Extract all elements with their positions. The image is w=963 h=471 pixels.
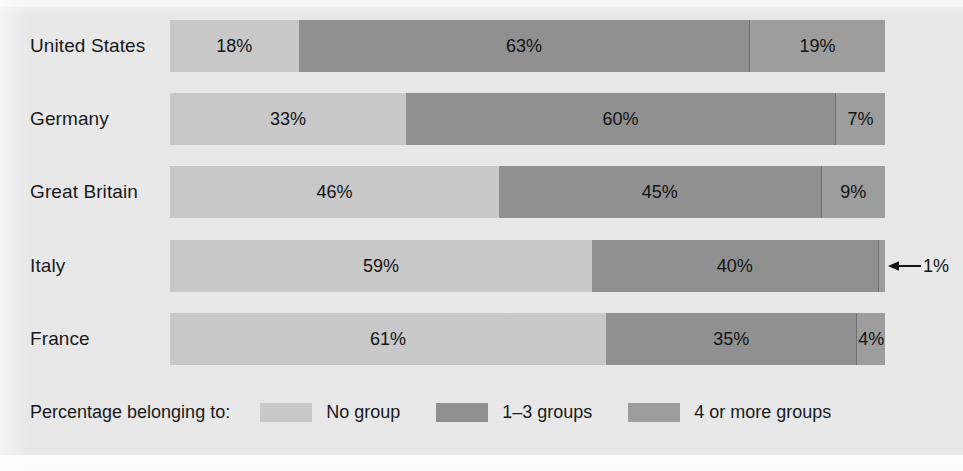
- top-page-margin: [0, 0, 963, 7]
- legend-item-no-group[interactable]: No group: [260, 402, 400, 423]
- legend-swatch-4-or-more-groups: [628, 403, 680, 422]
- bar-segment-4-or-more-groups[interactable]: 9%: [821, 166, 885, 218]
- stacked-bar-chart: United States 18% 63% 19% Germany 33% 60…: [0, 0, 963, 471]
- category-label-italy: Italy: [30, 240, 65, 292]
- bar-segment-4-or-more-groups[interactable]: 19%: [749, 20, 885, 72]
- chart-legend: Percentage belonging to: No group 1–3 gr…: [0, 392, 963, 432]
- left-arrow-icon: [888, 259, 922, 273]
- bar-segment-value-label: 4%: [857, 313, 885, 365]
- bar-segment-value-label: 59%: [170, 240, 592, 292]
- chart-row-united-states: United States 18% 63% 19%: [0, 20, 963, 72]
- legend-swatch-no-group: [260, 403, 312, 422]
- bar-segment-value-label: 45%: [499, 166, 821, 218]
- chart-row-great-britain: Great Britain 46% 45% 9%: [0, 166, 963, 218]
- bar-segment-value-label: 18%: [170, 20, 299, 72]
- category-label-germany: Germany: [30, 93, 109, 145]
- bar-segment-no-group[interactable]: 61%: [170, 313, 606, 365]
- bar-segment-no-group[interactable]: 46%: [170, 166, 499, 218]
- bar-segment-1-3-groups[interactable]: 63%: [299, 20, 749, 72]
- bar-segment-no-group[interactable]: 18%: [170, 20, 299, 72]
- bar-track-united-states: 18% 63% 19%: [170, 20, 885, 72]
- bar-segment-1-3-groups[interactable]: 40%: [592, 240, 878, 292]
- bar-segment-1-3-groups[interactable]: 60%: [406, 93, 835, 145]
- legend-label-4-or-more-groups: 4 or more groups: [694, 402, 831, 423]
- bar-segment-value-label: 7%: [836, 93, 885, 145]
- bar-segment-value-label: 46%: [170, 166, 499, 218]
- chart-row-france: France 61% 35% 4%: [0, 313, 963, 365]
- legend-label-1-3-groups: 1–3 groups: [502, 402, 592, 423]
- bar-track-italy: 59% 40%: [170, 240, 885, 292]
- bar-segment-value-label: 60%: [406, 93, 835, 145]
- legend-item-1-3-groups[interactable]: 1–3 groups: [436, 402, 592, 423]
- callout-annotation-italy-1-percent: 1%: [888, 240, 949, 292]
- category-label-france: France: [30, 313, 90, 365]
- bar-segment-4-or-more-groups[interactable]: 4%: [856, 313, 885, 365]
- bar-segment-1-3-groups[interactable]: 45%: [499, 166, 821, 218]
- bar-segment-value-label: 19%: [750, 20, 885, 72]
- bar-segment-value-label: 61%: [170, 313, 606, 365]
- bar-segment-value-label: 40%: [592, 240, 878, 292]
- chart-row-germany: Germany 33% 60% 7%: [0, 93, 963, 145]
- legend-caption: Percentage belonging to:: [30, 402, 230, 423]
- annotation-value-label: 1%: [923, 240, 949, 292]
- legend-label-no-group: No group: [326, 402, 400, 423]
- bar-track-great-britain: 46% 45% 9%: [170, 166, 885, 218]
- category-label-great-britain: Great Britain: [30, 166, 138, 218]
- chart-row-italy: Italy 59% 40% 1%: [0, 240, 963, 292]
- bar-segment-value-label: 9%: [822, 166, 885, 218]
- bar-track-france: 61% 35% 4%: [170, 313, 885, 365]
- bar-segment-value-label: 63%: [299, 20, 749, 72]
- category-label-united-states: United States: [30, 20, 145, 72]
- bar-track-germany: 33% 60% 7%: [170, 93, 885, 145]
- legend-item-4-or-more-groups[interactable]: 4 or more groups: [628, 402, 831, 423]
- bar-segment-4-or-more-groups[interactable]: 7%: [835, 93, 885, 145]
- bar-segment-no-group[interactable]: 59%: [170, 240, 592, 292]
- bar-segment-no-group[interactable]: 33%: [170, 93, 406, 145]
- bar-segment-value-label: 33%: [170, 93, 406, 145]
- bottom-page-margin: [0, 455, 963, 471]
- bar-segment-4-or-more-groups[interactable]: [878, 240, 885, 292]
- legend-swatch-1-3-groups: [436, 403, 488, 422]
- bar-segment-value-label: 35%: [606, 313, 856, 365]
- bar-segment-1-3-groups[interactable]: 35%: [606, 313, 856, 365]
